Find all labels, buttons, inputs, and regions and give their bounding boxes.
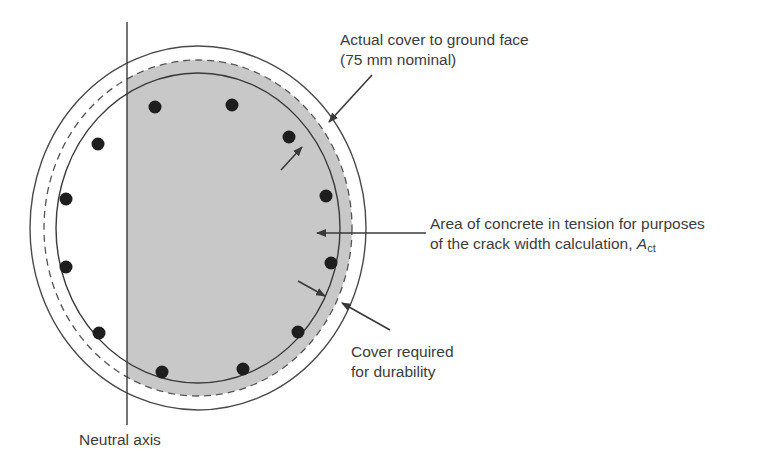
rebar [149, 101, 162, 114]
tension-area-symbol: A [637, 235, 647, 252]
tension-area-label-line2: of the crack width calculation, Act [430, 234, 705, 258]
rebar [93, 327, 106, 340]
tension-area-label-text: of the crack width calculation, [430, 235, 637, 252]
rebar [292, 326, 305, 339]
rebar [325, 257, 338, 270]
durability-cover-label-line1: Cover required [351, 342, 454, 362]
rebar [283, 131, 296, 144]
rebar [92, 138, 105, 151]
actual-cover-label: Actual cover to ground face (75 mm nomin… [340, 30, 529, 70]
actual-cover-arrow [329, 75, 372, 122]
rebar [226, 99, 239, 112]
neutral-axis-label: Neutral axis [79, 430, 161, 450]
rebar [60, 193, 73, 206]
actual-cover-label-line2: (75 mm nominal) [340, 50, 529, 70]
rebar [320, 190, 333, 203]
tension-area-label-line1: Area of concrete in tension for purposes [430, 214, 705, 234]
tension-area-label: Area of concrete in tension for purposes… [430, 214, 705, 258]
durability-outer-arrow [342, 303, 390, 330]
durability-cover-label-line2: for durability [351, 362, 454, 382]
actual-cover-label-line1: Actual cover to ground face [340, 30, 529, 50]
durability-cover-label: Cover required for durability [351, 342, 454, 382]
rebar [156, 366, 169, 379]
rebar [60, 261, 73, 274]
tension-area-subscript: ct [647, 242, 656, 254]
neutral-axis-label-text: Neutral axis [79, 431, 161, 448]
rebar [237, 363, 250, 376]
tension-area-shading [44, 60, 352, 396]
